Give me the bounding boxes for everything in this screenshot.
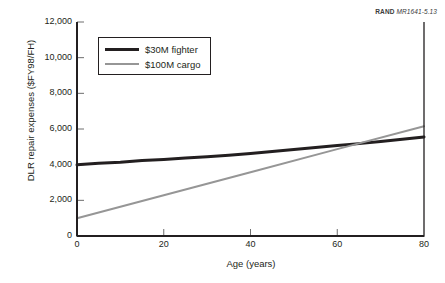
x-tick-label: 80 bbox=[404, 240, 444, 249]
x-tick-label: 0 bbox=[57, 240, 97, 249]
chart-figure: RANDMR1641-5.13 DLR repair expenses ($FY… bbox=[0, 0, 445, 283]
y-tick-label: 8,000 bbox=[26, 88, 72, 97]
x-tick-label: 20 bbox=[144, 240, 184, 249]
y-tick-label: 2,000 bbox=[26, 195, 72, 204]
y-tick-label: 10,000 bbox=[26, 53, 72, 62]
x-axis-title: Age (years) bbox=[77, 258, 425, 269]
legend-line-swatch-fighter bbox=[105, 48, 139, 51]
legend-label-cargo: $100M cargo bbox=[145, 59, 200, 70]
legend-label-fighter: $30M fighter bbox=[145, 44, 198, 55]
y-tick-label: 0 bbox=[26, 231, 72, 240]
rand-figure-number: MR1641-5.13 bbox=[397, 8, 437, 15]
x-tick-label: 60 bbox=[317, 240, 357, 249]
legend: $30M fighter $100M cargo bbox=[98, 37, 211, 75]
y-tick-label: 12,000 bbox=[26, 17, 72, 26]
x-tick-label: 40 bbox=[231, 240, 271, 249]
legend-line-swatch-cargo bbox=[105, 63, 139, 65]
source-credit: RANDMR1641-5.13 bbox=[375, 8, 437, 15]
legend-item-fighter: $30M fighter bbox=[105, 42, 198, 56]
rand-publisher-mark: RAND bbox=[375, 8, 394, 15]
y-axis-title: DLR repair expenses ($FY98/FH) bbox=[25, 3, 36, 218]
y-tick-label: 4,000 bbox=[26, 160, 72, 169]
y-tick-label: 6,000 bbox=[26, 124, 72, 133]
legend-item-cargo: $100M cargo bbox=[105, 57, 200, 71]
